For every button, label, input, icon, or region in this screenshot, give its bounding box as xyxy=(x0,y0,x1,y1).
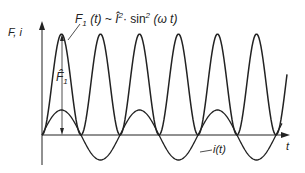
force-formula-label: F1 (t) ~ Î2· sin2 (ω t) xyxy=(75,11,177,28)
x-axis-label: t xyxy=(286,140,289,152)
x-axis-arrow-icon xyxy=(281,132,290,138)
current-label: i(t) xyxy=(213,143,226,155)
current-leader-line xyxy=(200,150,212,152)
y-axis-label: F, i xyxy=(8,26,22,38)
amplitude-arrow-down-icon xyxy=(60,128,64,135)
amplitude-label: F̂1 xyxy=(56,70,68,86)
force-curve xyxy=(42,34,287,135)
y-axis-arrow-icon xyxy=(39,21,45,30)
